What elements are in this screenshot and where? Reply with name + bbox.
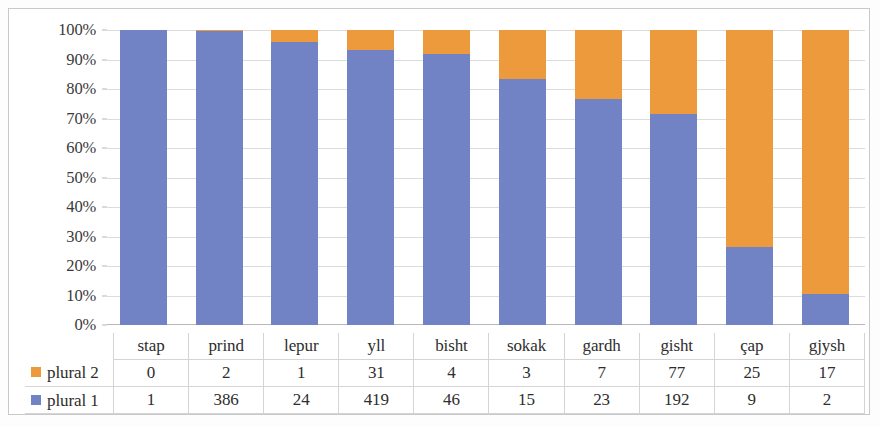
stacked-bar[interactable]: [271, 30, 318, 325]
bar-segment-plural-2[interactable]: [802, 30, 849, 294]
table-cell: 386: [189, 387, 264, 414]
table-column-header: çap: [714, 333, 789, 360]
y-axis-tick-label: 30%: [66, 227, 96, 247]
bar-segment-plural-2[interactable]: [271, 30, 318, 42]
table-cell: 1: [114, 387, 189, 414]
table-cell: 24: [264, 387, 339, 414]
table-cell: 3: [489, 360, 564, 387]
table-column-header: stap: [114, 333, 189, 360]
chart-data-table: stapprindlepuryllbishtsokakgardhgishtçap…: [25, 333, 865, 414]
table-column-header: bisht: [414, 333, 489, 360]
bar-slot: [334, 30, 410, 325]
table-column-header: yll: [339, 333, 414, 360]
legend-square-blue-icon: [31, 395, 41, 405]
table-cell: 1: [264, 360, 339, 387]
y-axis-tick-label: 60%: [66, 138, 96, 158]
table-cell: 77: [639, 360, 714, 387]
y-axis-tick-label: 90%: [66, 50, 96, 70]
table-cell: 25: [714, 360, 789, 387]
table-cell: 192: [639, 387, 714, 414]
stacked-bar[interactable]: [347, 30, 394, 325]
table-cell: 17: [789, 360, 864, 387]
table-cell: 419: [339, 387, 414, 414]
stacked-bar[interactable]: [423, 30, 470, 325]
stacked-bar[interactable]: [499, 30, 546, 325]
stacked-bar[interactable]: [802, 30, 849, 325]
y-axis-tick-label: 100%: [58, 20, 96, 40]
bar-segment-plural-2[interactable]: [196, 30, 243, 31]
table-cell: 2: [789, 387, 864, 414]
table-row: plural 202131437772517: [25, 360, 865, 387]
table-column-header: sokak: [489, 333, 564, 360]
bar-segment-plural-1[interactable]: [499, 79, 546, 325]
chart-screenshot-root: 100%90%80%70%60%50%40%30%20%10%0% stappr…: [0, 0, 880, 427]
legend-row-label-cell: plural 2: [25, 360, 114, 387]
y-axis-tick-label: 70%: [66, 109, 96, 129]
table-cell: 7: [564, 360, 639, 387]
bar-segment-plural-1[interactable]: [120, 30, 167, 325]
bar-segment-plural-2[interactable]: [423, 30, 470, 54]
bar-slot: [562, 30, 638, 325]
table-cell: 46: [414, 387, 489, 414]
table-row: plural 113862441946152319292: [25, 387, 865, 414]
bar-segment-plural-1[interactable]: [650, 114, 697, 325]
table-cell: 4: [414, 360, 489, 387]
bar-segment-plural-2[interactable]: [575, 30, 622, 99]
legend-row-label-cell: plural 1: [25, 387, 114, 414]
table-cell: 23: [564, 387, 639, 414]
bar-segment-plural-1[interactable]: [802, 294, 849, 325]
table-header-row: stapprindlepuryllbishtsokakgardhgishtçap…: [25, 333, 865, 360]
bar-segment-plural-1[interactable]: [347, 50, 394, 325]
table-column-header: gjysh: [789, 333, 864, 360]
stacked-bar[interactable]: [726, 30, 773, 325]
table-cell: 2: [189, 360, 264, 387]
bar-segment-plural-2[interactable]: [347, 30, 394, 50]
stacked-bar[interactable]: [120, 30, 167, 325]
bar-slot: [713, 30, 789, 325]
bar-segment-plural-1[interactable]: [726, 247, 773, 325]
chart-plot-wrapper: 100%90%80%70%60%50%40%30%20%10%0%: [0, 0, 880, 340]
bar-slot: [183, 30, 259, 325]
y-axis-tick-label: 20%: [66, 256, 96, 276]
stacked-bar[interactable]: [575, 30, 622, 325]
bar-slot: [107, 30, 183, 325]
table-column-header: lepur: [264, 333, 339, 360]
table-column-header: gardh: [564, 333, 639, 360]
legend-series-label: plural 1: [47, 391, 99, 411]
bar-segment-plural-2[interactable]: [650, 30, 697, 114]
table-cell: 0: [114, 360, 189, 387]
y-axis-tick-label: 80%: [66, 79, 96, 99]
y-axis-tick-label: 50%: [66, 168, 96, 188]
bar-slot: [410, 30, 486, 325]
bar-segment-plural-1[interactable]: [196, 31, 243, 325]
y-axis-labels: 100%90%80%70%60%50%40%30%20%10%0%: [28, 30, 102, 325]
plot-area: [107, 30, 865, 325]
table-cell: 31: [339, 360, 414, 387]
table-column-header: prind: [189, 333, 264, 360]
bar-slot: [789, 30, 865, 325]
y-axis-tick-label: 0%: [74, 315, 96, 335]
stacked-bar[interactable]: [650, 30, 697, 325]
y-axis-tick-label: 10%: [66, 286, 96, 306]
y-axis-tick-label: 40%: [66, 197, 96, 217]
bar-segment-plural-2[interactable]: [499, 30, 546, 79]
bar-segment-plural-1[interactable]: [575, 99, 622, 325]
bar-slot: [486, 30, 562, 325]
table-column-header: gisht: [639, 333, 714, 360]
legend-square-orange-icon: [31, 367, 41, 377]
table-cell: 15: [489, 387, 564, 414]
bar-segment-plural-1[interactable]: [423, 54, 470, 325]
bar-slot: [259, 30, 335, 325]
stacked-bar[interactable]: [196, 30, 243, 325]
bar-segment-plural-2[interactable]: [726, 30, 773, 247]
legend-series-label: plural 2: [47, 363, 99, 383]
table-corner-cell: [25, 333, 114, 360]
bar-slot: [638, 30, 714, 325]
table-cell: 9: [714, 387, 789, 414]
bar-segment-plural-1[interactable]: [271, 42, 318, 325]
